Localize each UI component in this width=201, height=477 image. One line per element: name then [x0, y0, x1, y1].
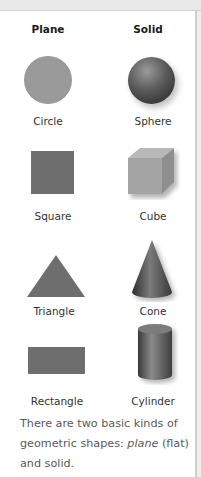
- caption-text: There are two basic kinds of geometric s…: [20, 414, 195, 474]
- triangle-shape: [27, 255, 85, 297]
- rectangle-shape: [28, 347, 85, 374]
- shapes-panel: Plane Solid Circle Sphere Square Cube: [0, 11, 197, 477]
- sphere-label: Sphere: [108, 115, 198, 127]
- caption-italic: plane: [127, 437, 158, 450]
- circle-shape: [24, 56, 72, 104]
- plane-header: Plane: [8, 23, 88, 35]
- circle-label: Circle: [3, 115, 93, 127]
- top-band: [0, 0, 201, 11]
- cylinder-shape: [137, 323, 177, 383]
- square-shape: [31, 151, 74, 194]
- cylinder-label: Cylinder: [108, 395, 198, 407]
- triangle-label: Triangle: [9, 305, 99, 317]
- sphere-shape: [128, 57, 175, 104]
- cube-label: Cube: [108, 210, 198, 222]
- cube-shape: [128, 148, 178, 198]
- square-label: Square: [8, 210, 98, 222]
- cone-shape: [130, 240, 180, 302]
- cone-label: Cone: [108, 305, 198, 317]
- solid-header: Solid: [108, 23, 188, 35]
- rectangle-label: Rectangle: [12, 395, 102, 407]
